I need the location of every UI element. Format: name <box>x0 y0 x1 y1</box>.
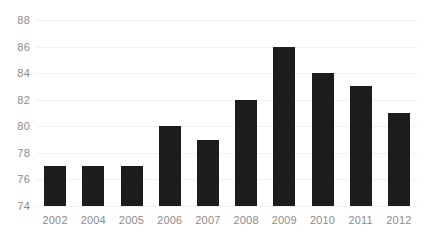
bar[interactable] <box>44 166 66 206</box>
x-axis-tick-label: 2004 <box>74 210 112 232</box>
y-axis-tick-label: 80 <box>17 121 30 132</box>
plot-area <box>36 20 418 206</box>
bar-slot <box>36 20 74 206</box>
x-axis-tick-label: 2012 <box>380 210 418 232</box>
x-axis-tick-label: 2011 <box>342 210 380 232</box>
y-axis: 88 86 84 82 80 78 76 74 <box>0 0 36 245</box>
bar-slot <box>265 20 303 206</box>
bar[interactable] <box>350 86 372 206</box>
y-axis-tick-label: 82 <box>17 94 30 105</box>
bar-slot <box>74 20 112 206</box>
bar-slot <box>303 20 341 206</box>
y-axis-tick-label: 76 <box>17 174 30 185</box>
gridline <box>36 206 418 207</box>
bar[interactable] <box>273 47 295 206</box>
bar[interactable] <box>159 126 181 206</box>
x-axis-tick-label: 2007 <box>189 210 227 232</box>
x-axis-tick-label: 2006 <box>151 210 189 232</box>
y-axis-tick-label: 84 <box>17 68 30 79</box>
bar-slot <box>227 20 265 206</box>
x-axis-tick-label: 2009 <box>265 210 303 232</box>
x-axis: 2002 2004 2005 2006 2007 2008 2009 2010 … <box>36 210 418 232</box>
bar[interactable] <box>235 100 257 206</box>
bar-slot <box>189 20 227 206</box>
x-axis-tick-label: 2010 <box>303 210 341 232</box>
bar[interactable] <box>197 140 219 206</box>
y-axis-tick-label: 86 <box>17 41 30 52</box>
y-axis-tick-label: 78 <box>17 147 30 158</box>
bar[interactable] <box>388 113 410 206</box>
x-axis-tick-label: 2008 <box>227 210 265 232</box>
y-axis-tick-label: 74 <box>17 201 30 212</box>
bar[interactable] <box>312 73 334 206</box>
bar[interactable] <box>82 166 104 206</box>
bar-slot <box>342 20 380 206</box>
x-axis-tick-label: 2002 <box>36 210 74 232</box>
x-axis-tick-label: 2005 <box>112 210 150 232</box>
bar-series <box>36 20 418 206</box>
y-axis-tick-label: 88 <box>17 15 30 26</box>
bar[interactable] <box>121 166 143 206</box>
bar-slot <box>380 20 418 206</box>
bar-slot <box>112 20 150 206</box>
bar-slot <box>151 20 189 206</box>
bar-chart: 88 86 84 82 80 78 76 74 2002 <box>0 0 425 245</box>
